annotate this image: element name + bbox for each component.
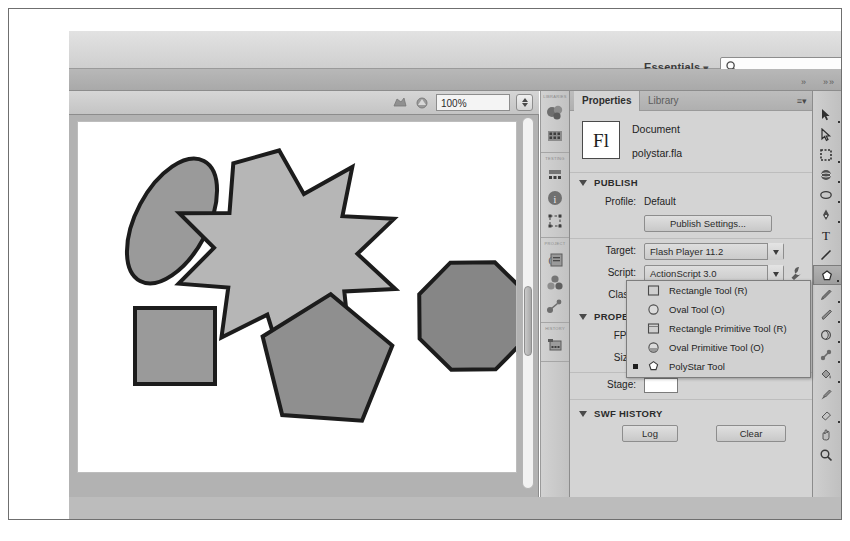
canvas-artwork xyxy=(78,122,516,472)
scrollbar-thumb[interactable] xyxy=(524,286,532,356)
tool-flyout-marker[interactable] xyxy=(838,421,840,423)
menu-item-oval-primitive-tool[interactable]: Oval Primitive Tool (O) xyxy=(627,338,810,357)
zoom-level-input[interactable]: 100% xyxy=(436,94,510,111)
transform-icon[interactable] xyxy=(545,211,565,231)
panel-menu-icon[interactable]: ≡▾ xyxy=(797,96,807,106)
tool-flyout-marker[interactable] xyxy=(838,381,840,383)
log-button[interactable]: Log xyxy=(622,425,678,442)
tool-flyout-marker[interactable] xyxy=(838,321,840,323)
target-select[interactable]: Flash Player 11.2 xyxy=(644,243,784,260)
target-label: Target: xyxy=(566,245,636,256)
info-icon[interactable]: i xyxy=(545,188,565,208)
deco-tool[interactable] xyxy=(813,325,842,345)
section-title: SWF HISTORY xyxy=(594,408,663,419)
chevron-down-icon[interactable] xyxy=(767,243,783,260)
edit-symbol-icon[interactable] xyxy=(414,96,430,110)
free-transform-tool[interactable] xyxy=(813,185,842,205)
oval-primitive-tool-icon xyxy=(647,341,660,354)
menu-item-label: Oval Primitive Tool (O) xyxy=(669,342,764,353)
code-snippets-icon[interactable]: ( xyxy=(545,250,565,270)
eyedropper-tool[interactable] xyxy=(813,385,842,405)
left-white-margin xyxy=(9,31,69,520)
panel-collapse-icon[interactable]: » xyxy=(801,77,807,87)
line-tool[interactable] xyxy=(813,245,842,265)
selection-tool[interactable] xyxy=(813,105,842,125)
disclosure-triangle-icon[interactable] xyxy=(579,314,587,320)
selection-arrow-icon xyxy=(819,108,833,122)
hand-tool[interactable] xyxy=(813,425,842,445)
pen-tool[interactable] xyxy=(813,205,842,225)
tool-flyout-marker[interactable] xyxy=(838,121,840,123)
profile-value[interactable]: Default xyxy=(644,196,676,207)
shape-tool[interactable] xyxy=(813,265,842,285)
disclosure-triangle-icon[interactable] xyxy=(579,411,587,417)
dock-group-testing: TESTING i xyxy=(541,153,569,238)
script-label: Script: xyxy=(566,267,636,278)
zoom-stepper-down-icon[interactable] xyxy=(522,103,528,107)
document-type-label: Document xyxy=(632,123,680,135)
tool-flyout-marker[interactable] xyxy=(838,361,840,363)
wrench-icon[interactable] xyxy=(789,266,803,281)
align-icon[interactable] xyxy=(545,165,565,185)
menu-item-oval-tool[interactable]: Oval Tool (O) xyxy=(627,300,810,319)
stage-area[interactable] xyxy=(69,115,539,497)
pen-nib-icon xyxy=(819,208,833,222)
movie-explorer-icon[interactable] xyxy=(545,335,565,355)
tool-flyout-marker[interactable] xyxy=(838,221,840,223)
rectangle-primitive-tool-icon xyxy=(647,322,660,335)
bone-tool[interactable] xyxy=(813,345,842,365)
stage-color-swatch[interactable] xyxy=(644,378,678,393)
document-canvas[interactable] xyxy=(77,121,517,473)
shape-tool-flyout-menu[interactable]: Rectangle Tool (R) Oval Tool (O) Rectang… xyxy=(626,280,811,378)
swatches-icon[interactable] xyxy=(545,126,565,146)
3d-rotation-tool[interactable] xyxy=(813,165,842,185)
paint-bucket-tool[interactable] xyxy=(813,365,842,385)
panel-tab-strip: Properties Library ≡▾ xyxy=(570,91,812,111)
menu-item-polystar-tool[interactable]: PolyStar Tool xyxy=(627,357,810,376)
pencil-tool[interactable] xyxy=(813,285,842,305)
rectangle-tool-icon xyxy=(647,284,660,297)
edit-scene-icon[interactable] xyxy=(392,96,408,110)
tool-flyout-marker[interactable] xyxy=(838,301,840,303)
tool-flyout-marker[interactable] xyxy=(838,161,840,163)
3d-rotation-icon xyxy=(819,168,833,182)
shape-octagon[interactable] xyxy=(397,240,516,391)
zoom-tool[interactable] xyxy=(813,445,842,465)
publish-settings-button[interactable]: Publish Settings... xyxy=(644,215,772,232)
section-header-publish[interactable]: PUBLISH xyxy=(570,173,812,192)
clear-button[interactable]: Clear xyxy=(716,425,786,442)
tool-flyout-marker[interactable] xyxy=(837,280,839,282)
tab-library[interactable]: Library xyxy=(640,91,687,111)
menu-item-rectangle-primitive-tool[interactable]: Rectangle Primitive Tool (R) xyxy=(627,319,810,338)
stage-vertical-scrollbar[interactable] xyxy=(522,117,534,489)
stage-label: Stage: xyxy=(566,379,636,390)
panel-expand-icon[interactable]: »» xyxy=(823,77,835,87)
section-header-swf-history[interactable]: SWF HISTORY xyxy=(570,404,812,423)
disclosure-triangle-icon[interactable] xyxy=(579,180,587,186)
zoom-stepper-up-icon[interactable] xyxy=(522,98,528,102)
eraser-tool[interactable] xyxy=(813,405,842,425)
zoom-stepper[interactable] xyxy=(516,94,533,111)
tool-flyout-marker[interactable] xyxy=(838,341,840,343)
components-icon[interactable] xyxy=(545,273,565,293)
dock-group-libraries: LIBRARIES xyxy=(541,91,569,153)
dock-group-project: PROJECT ( xyxy=(541,238,569,323)
divider xyxy=(570,238,812,239)
menu-item-label: Rectangle Primitive Tool (R) xyxy=(669,323,787,334)
subselection-arrow-icon xyxy=(819,128,833,142)
tool-flyout-marker[interactable] xyxy=(838,201,840,203)
divider xyxy=(570,399,812,400)
scanned-page: Essentials ▾ » »» xyxy=(0,0,850,541)
polystar-tool-icon xyxy=(647,360,660,373)
shape-square[interactable] xyxy=(135,308,215,384)
tool-flyout-marker[interactable] xyxy=(838,181,840,183)
subselection-tool[interactable] xyxy=(813,125,842,145)
brush-tool[interactable] xyxy=(813,305,842,325)
menu-item-rectangle-tool[interactable]: Rectangle Tool (R) xyxy=(627,281,810,300)
text-tool[interactable]: T xyxy=(813,225,842,245)
tab-properties[interactable]: Properties xyxy=(574,91,640,111)
color-icon[interactable] xyxy=(545,103,565,123)
motion-presets-icon[interactable] xyxy=(545,296,565,316)
lasso-tool[interactable] xyxy=(813,145,842,165)
dock-group-history: HISTORY xyxy=(541,323,569,362)
